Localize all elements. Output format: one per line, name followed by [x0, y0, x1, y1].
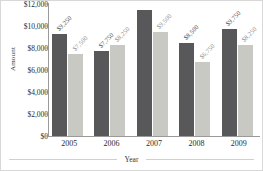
y-tick-label: $6,000 [4, 66, 48, 75]
y-tick-label: $4,000 [4, 88, 48, 97]
y-tick-label: $10,000 [4, 22, 48, 31]
bar-chart: Amount $0$2,000$4,000$6,000$8,000$10,000… [0, 0, 263, 171]
bar-value-label: $8,500 [182, 23, 200, 41]
y-tick-label: $0 [4, 132, 48, 141]
x-tick-label: 2008 [175, 139, 217, 148]
x-tick-label: 2009 [218, 139, 260, 148]
y-tick-label: $8,000 [4, 44, 48, 53]
y-tick-label: $2,000 [4, 110, 48, 119]
x-axis-line [48, 136, 260, 137]
bar: $7,750 [94, 51, 109, 136]
footer-rule-right [146, 159, 254, 160]
bar: $8,250 [110, 45, 125, 136]
bar-value-label: $8,250 [240, 25, 258, 43]
bar [137, 10, 152, 137]
bar-value-label: $9,750 [224, 9, 242, 27]
bar: $9,500 [153, 32, 168, 137]
bar-group: $9,250$7,500 [48, 4, 90, 136]
y-tick-label: $12,000 [4, 0, 48, 9]
bar-group: $7,750$8,250 [90, 4, 132, 136]
bar-value-label: $9,500 [155, 12, 173, 30]
bar-value-label: $9,250 [55, 14, 73, 32]
bar: $6,750 [195, 62, 210, 136]
bar-value-label: $8,250 [113, 25, 131, 43]
bar-value-label: $7,500 [71, 34, 89, 52]
bar: $9,750 [222, 29, 237, 136]
bar: $8,500 [179, 43, 194, 137]
bar: $7,500 [68, 54, 83, 137]
x-tick-label: 2005 [48, 139, 90, 148]
bar-group: $9,500 [133, 4, 175, 136]
plot-area: $9,250$7,500$7,750$8,250$9,500$8,500$6,7… [48, 4, 260, 136]
bar-value-label: $6,750 [198, 42, 216, 60]
bar-group: $8,500$6,750 [175, 4, 217, 136]
bar: $9,250 [52, 34, 67, 136]
bar: $8,250 [238, 45, 253, 136]
y-axis-ticks: $0$2,000$4,000$6,000$8,000$10,000$12,000 [1, 1, 48, 171]
x-tick-label: 2007 [133, 139, 175, 148]
bar-group: $9,750$8,250 [218, 4, 260, 136]
x-tick-label: 2006 [90, 139, 132, 148]
